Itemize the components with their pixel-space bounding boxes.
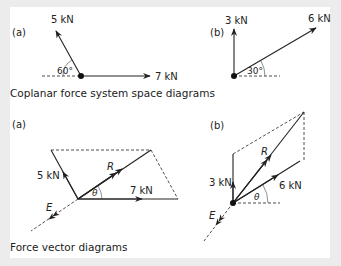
vector-diagram-a: (a) 5 kN R 7 kN E θ [12, 119, 178, 231]
vector-diagram-b: (b) 3 kN R 6 kN E θ [204, 112, 304, 241]
label-7kn: 7 kN [130, 185, 153, 196]
origin-point [230, 200, 236, 206]
angle-arc [98, 186, 102, 199]
equilibrant-line [204, 203, 233, 241]
parallelogram-side [151, 150, 178, 199]
label-6kn: 6 kN [308, 13, 331, 24]
force-arrow-5kn [63, 172, 78, 199]
angle-arc [263, 185, 268, 203]
tag-vector-b: (b) [210, 120, 224, 131]
caption-vector-diagrams: Force vector diagrams [10, 241, 128, 253]
origin-point [78, 73, 84, 79]
label-5kn: 5 kN [37, 170, 60, 181]
force-diagrams: (a) 5 kN 7 kN 60° (b) 3 kN 6 kN 30° Copl… [0, 0, 341, 266]
label-resultant: R [107, 161, 114, 172]
label-resultant: R [261, 146, 268, 157]
tag-space-b: (b) [210, 27, 224, 38]
label-3kn: 3 kN [225, 15, 248, 26]
label-6kn: 6 kN [279, 180, 302, 191]
label-3kn: 3 kN [209, 177, 232, 188]
angle-theta: θ [92, 188, 98, 198]
label-7kn: 7 kN [155, 71, 178, 82]
tag-vector-a: (a) [12, 119, 26, 130]
label-5kn: 5 kN [51, 14, 74, 25]
label-equilibrant: E [46, 202, 53, 213]
label-equilibrant: E [209, 210, 216, 221]
tag-space-a: (a) [12, 27, 26, 38]
space-diagram-b: (b) 3 kN 6 kN 30° [210, 13, 331, 79]
angle-label: 30° [247, 66, 263, 76]
space-diagram-a: (a) 5 kN 7 kN 60° [12, 14, 178, 82]
angle-label: 60° [57, 66, 73, 76]
origin-point [231, 73, 237, 79]
equilibrant-line [31, 199, 78, 231]
parallelogram-top [233, 112, 304, 154]
resultant-arrow-2 [78, 169, 122, 199]
equilibrant-arrow-2 [216, 203, 233, 225]
caption-space-diagrams: Coplanar force system space diagrams [10, 87, 215, 99]
angle-theta: θ [254, 192, 260, 202]
resultant-arrow-2 [233, 155, 271, 203]
